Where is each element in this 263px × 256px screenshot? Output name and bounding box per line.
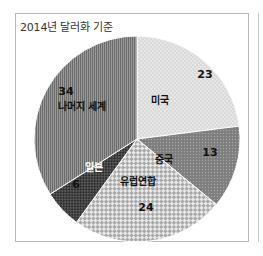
label-china: 중국 bbox=[155, 154, 173, 165]
label-rest-of-world: 나머지 세계 bbox=[58, 100, 106, 112]
label-us: 미국 bbox=[151, 94, 169, 106]
value-eu: 24 bbox=[138, 201, 154, 214]
value-rest-of-world: 34 bbox=[58, 85, 74, 98]
value-us: 23 bbox=[197, 68, 212, 81]
pie-chart: 23 미국 중국 13 유럽연합 24 일본 6 34 나머지 세계 bbox=[0, 0, 263, 256]
value-japan: 6 bbox=[72, 178, 80, 191]
slice-us bbox=[137, 36, 239, 139]
label-eu: 유럽연합 bbox=[120, 175, 157, 187]
value-china: 13 bbox=[202, 146, 217, 159]
label-japan: 일본 bbox=[85, 161, 103, 173]
